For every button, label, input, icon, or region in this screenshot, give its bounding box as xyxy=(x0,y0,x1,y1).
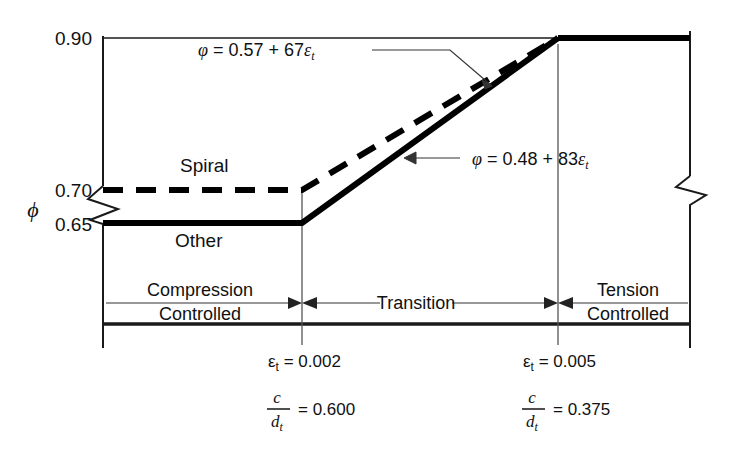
marker2-ratio-numerator: c xyxy=(528,388,536,407)
phi-strain-diagram: 0.90 0.70 0.65 ϕ Spiral Other φ = 0.57 +… xyxy=(0,0,735,453)
marker1-ratio-equals: = 0.600 xyxy=(298,400,355,419)
other-equation-text: φ = 0.48 + 83εt xyxy=(472,149,589,172)
region-label-transition: Transition xyxy=(377,293,455,313)
y-axis-title-phi: ϕ xyxy=(27,197,38,222)
y-tick-label-070: 0.70 xyxy=(55,180,92,201)
marker1-ratio-numerator: c xyxy=(273,388,281,407)
region-label-compression-line2: Controlled xyxy=(159,304,241,324)
region-label-compression-line1: Compression xyxy=(147,280,253,300)
other-equation-phi-symbol: φ xyxy=(472,149,482,169)
spiral-equation-body: = 0.57 + 67 xyxy=(213,40,304,60)
region-label-tension-line1: Tension xyxy=(597,280,659,300)
y-tick-label-090: 0.90 xyxy=(55,28,92,49)
spiral-equation-phi-symbol: φ xyxy=(198,40,208,60)
other-equation-body: = 0.48 + 83 xyxy=(487,149,578,169)
spiral-equation-text: φ = 0.57 + 67εt xyxy=(198,40,315,63)
curve-label-other: Other xyxy=(175,230,223,251)
region-label-tension-line2: Controlled xyxy=(587,304,669,324)
marker2-strain-equals: = 0.005 xyxy=(539,352,596,371)
marker1-strain-text: εt = 0.002 xyxy=(268,352,341,374)
curve-label-spiral: Spiral xyxy=(180,155,229,176)
diagram-canvas: 0.90 0.70 0.65 ϕ Spiral Other φ = 0.57 +… xyxy=(0,0,735,453)
marker2-strain-text: εt = 0.005 xyxy=(523,352,596,374)
marker1-strain-equals: = 0.002 xyxy=(284,352,341,371)
marker2-ratio-equals: = 0.375 xyxy=(553,400,610,419)
y-tick-label-065: 0.65 xyxy=(55,214,92,235)
canvas-background xyxy=(0,0,735,453)
